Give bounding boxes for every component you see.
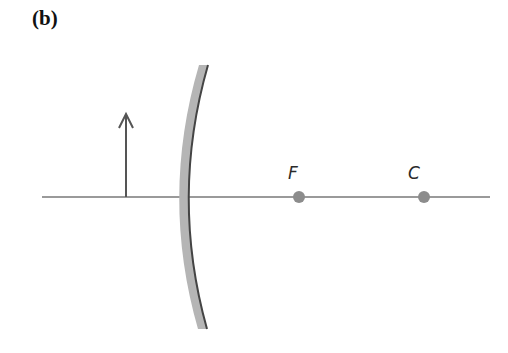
focal-point-label: F: [288, 163, 298, 183]
center-of-curvature-label: C: [408, 163, 420, 183]
mirror-diagram: F C: [0, 0, 508, 353]
object-arrow-icon: [119, 114, 133, 197]
